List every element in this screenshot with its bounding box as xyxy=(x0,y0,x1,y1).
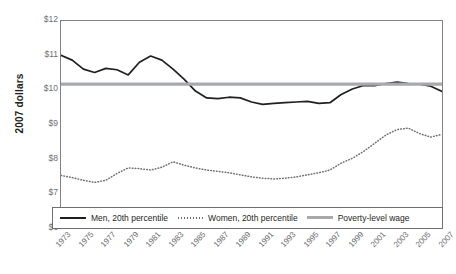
y-tick-label: $12 xyxy=(32,15,58,24)
legend-item: Poverty-level wage xyxy=(307,213,410,223)
plot-area xyxy=(60,20,443,228)
x-tick-label: 1991 xyxy=(251,230,275,255)
x-tick-label: 1993 xyxy=(274,230,298,255)
legend-swatch-thick xyxy=(307,214,333,222)
x-tick-label: 1997 xyxy=(319,230,343,255)
y-tick-label: $7 xyxy=(32,188,58,197)
y-tick-label: $10 xyxy=(32,84,58,93)
y-tick-label: $11 xyxy=(32,50,58,59)
legend-swatch-dotted xyxy=(177,214,203,222)
x-tick-label: 1995 xyxy=(296,230,320,255)
x-tick-label: 1981 xyxy=(138,230,162,255)
x-tick-label: 1989 xyxy=(229,230,253,255)
men-20th-percentile-line xyxy=(61,55,442,104)
series-canvas xyxy=(61,21,442,227)
x-tick-label: 2001 xyxy=(364,230,388,255)
x-tick-label: 1983 xyxy=(161,230,185,255)
legend-label: Poverty-level wage xyxy=(338,213,410,223)
x-tick-label: 1999 xyxy=(341,230,365,255)
x-tick-label: 1985 xyxy=(183,230,207,255)
x-tick-label: 1987 xyxy=(206,230,230,255)
y-tick-label: $9 xyxy=(32,119,58,128)
women-20th-percentile-line xyxy=(61,128,442,182)
legend-item: Men, 20th percentile xyxy=(60,213,168,223)
x-tick-label: 2003 xyxy=(386,230,410,255)
x-tick-label: 2005 xyxy=(409,230,433,255)
x-tick-label: 2007 xyxy=(431,230,455,255)
y-tick-label: $8 xyxy=(32,154,58,163)
y-axis-tick-labels: $12$11$10$9$8$7$6 xyxy=(32,0,58,274)
y-axis-title: 2007 dollars xyxy=(14,49,25,159)
legend-swatch-solid xyxy=(60,214,86,222)
x-tick-label: 1975 xyxy=(71,230,95,255)
legend-item: Women, 20th percentile xyxy=(177,213,298,223)
x-tick-label: 1979 xyxy=(116,230,140,255)
legend-label: Men, 20th percentile xyxy=(91,213,168,223)
chart-legend: Men, 20th percentileWomen, 20th percenti… xyxy=(52,207,443,229)
legend-label: Women, 20th percentile xyxy=(208,213,298,223)
x-tick-label: 1977 xyxy=(93,230,117,255)
x-axis-tick-labels: 1973197519771979198119831985198719891991… xyxy=(60,230,443,274)
